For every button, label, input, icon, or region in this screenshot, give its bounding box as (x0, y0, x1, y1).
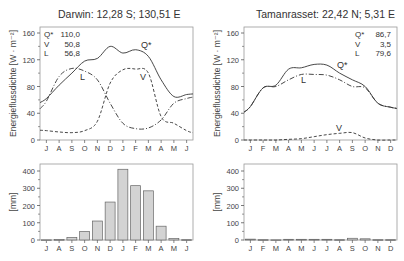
svg-text:V: V (140, 72, 146, 82)
svg-text:0: 0 (31, 136, 35, 145)
svg-text:Q*: Q* (337, 60, 348, 70)
precip-bar (386, 240, 396, 241)
svg-text:F: F (261, 244, 266, 253)
svg-text:M: M (298, 244, 304, 253)
svg-text:A: A (57, 244, 62, 253)
svg-text:100: 100 (22, 219, 35, 228)
svg-text:A: A (337, 244, 342, 253)
precip-bar (271, 240, 281, 241)
precip-bar (80, 231, 90, 240)
svg-text:N: N (95, 244, 100, 253)
svg-text:L: L (80, 72, 85, 82)
svg-text:O: O (362, 144, 368, 153)
svg-text:Energieflussdichte [W · m⁻²]: Energieflussdichte [W · m⁻²] (212, 30, 222, 137)
precip-bar (373, 240, 383, 241)
svg-text:M: M (273, 244, 279, 253)
svg-text:L: L (44, 49, 49, 58)
svg-text:F: F (133, 244, 138, 253)
svg-text:J: J (312, 144, 316, 153)
precip-bar (131, 186, 141, 240)
svg-text:M: M (273, 144, 279, 153)
precip-bar (67, 237, 77, 240)
svg-text:M: M (171, 244, 177, 253)
precip-bar (169, 239, 179, 240)
svg-text:300: 300 (22, 184, 35, 193)
precip-bar (335, 240, 345, 241)
svg-text:J: J (325, 244, 329, 253)
svg-text:300: 300 (226, 184, 239, 193)
svg-text:40: 40 (27, 109, 35, 118)
precip-bar (322, 239, 332, 240)
svg-text:M: M (171, 144, 177, 153)
svg-text:A: A (286, 244, 291, 253)
precip-bar (296, 239, 306, 240)
svg-text:D: D (107, 244, 113, 253)
series-L-line (244, 74, 397, 112)
precip-bar (54, 239, 64, 240)
series-V-line (40, 68, 193, 132)
precip-bar (156, 226, 166, 240)
svg-text:Q*: Q* (355, 30, 364, 39)
precip-bar (118, 169, 128, 240)
svg-text:A: A (286, 144, 291, 153)
precip-bar (360, 239, 370, 240)
svg-text:120: 120 (22, 56, 35, 65)
svg-text:M: M (145, 244, 151, 253)
precip-bar (105, 202, 115, 240)
svg-text:D: D (107, 144, 113, 153)
svg-text:O: O (82, 144, 88, 153)
svg-text:S: S (350, 244, 355, 253)
svg-text:80: 80 (231, 83, 239, 92)
precip-bar (182, 240, 192, 241)
svg-text:0: 0 (235, 236, 239, 245)
svg-text:Q*: Q* (44, 30, 53, 39)
series-L-line (40, 68, 193, 129)
svg-text:J: J (121, 244, 125, 253)
svg-text:0: 0 (31, 236, 35, 245)
svg-text:[mm]: [mm] (212, 193, 222, 212)
svg-text:56,8: 56,8 (64, 49, 80, 58)
svg-text:N: N (375, 244, 380, 253)
precip-bar (309, 239, 319, 240)
svg-text:M: M (298, 144, 304, 153)
svg-text:J: J (45, 244, 49, 253)
svg-text:80: 80 (27, 83, 35, 92)
svg-text:3,5: 3,5 (380, 40, 392, 49)
svg-text:J: J (185, 244, 189, 253)
svg-text:200: 200 (22, 202, 35, 211)
svg-text:V: V (355, 40, 361, 49)
svg-text:M: M (145, 144, 151, 153)
svg-text:S: S (69, 144, 74, 153)
svg-text:D: D (388, 144, 394, 153)
series-Qstar-line (244, 64, 397, 112)
precip-bar (347, 238, 357, 240)
svg-text:A: A (337, 144, 342, 153)
svg-text:100: 100 (226, 219, 239, 228)
svg-text:J: J (312, 244, 316, 253)
svg-text:[mm]: [mm] (8, 193, 18, 212)
svg-text:0: 0 (235, 136, 239, 145)
precip-bar (284, 239, 294, 240)
svg-text:50,8: 50,8 (64, 40, 80, 49)
precip-bar (245, 239, 255, 240)
svg-text:A: A (159, 144, 164, 153)
svg-text:86,7: 86,7 (375, 30, 391, 39)
series-V-line (244, 132, 397, 140)
svg-text:L: L (355, 49, 360, 58)
svg-text:V: V (44, 40, 50, 49)
precip-bar (92, 221, 102, 240)
svg-text:J: J (45, 144, 49, 153)
svg-text:D: D (388, 244, 394, 253)
svg-text:400: 400 (22, 167, 35, 176)
svg-text:O: O (82, 244, 88, 253)
svg-text:J: J (121, 144, 125, 153)
svg-text:Energieflussdichte [W · m⁻²]: Energieflussdichte [W · m⁻²] (8, 30, 18, 137)
precip-bar (258, 240, 268, 241)
svg-text:J: J (325, 144, 329, 153)
svg-text:110,0: 110,0 (61, 30, 81, 39)
tamanrasset-energy-chart: 04080120160JFMAMJJASONDEnergieflussdicht… (212, 27, 397, 153)
svg-text:N: N (375, 144, 380, 153)
svg-text:160: 160 (226, 29, 239, 38)
svg-text:Q*: Q* (141, 40, 152, 50)
tamanrasset-precip-chart: 0100200300400JFMAMJJASOND[mm] (212, 164, 397, 253)
